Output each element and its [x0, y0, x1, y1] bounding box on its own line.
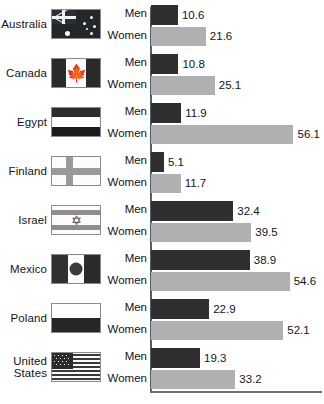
series-label-men: Men: [125, 149, 147, 170]
bar-women: [151, 370, 235, 389]
bar-value-women: 25.1: [219, 79, 241, 91]
series-label-women: Women: [108, 317, 147, 340]
flag-stripe-middle: [52, 117, 100, 126]
bar-women: [151, 223, 251, 242]
bar-row-men: 38.9: [151, 249, 324, 270]
series-label-women: Women: [108, 121, 147, 144]
bar-row-men: 19.3: [151, 347, 324, 368]
country-name-line: Egypt: [17, 116, 47, 129]
bars: 32.4 39.5: [151, 196, 324, 244]
country-label: Egypt: [0, 98, 47, 146]
bar-men: [151, 299, 209, 319]
bar-row-women: 54.6: [151, 271, 324, 291]
series-names: Men Women: [103, 147, 147, 195]
chart-row-poland: Poland Men Women 22.9 52.1: [0, 294, 324, 342]
bar-value-women: 11.7: [185, 177, 207, 189]
nordic-cross-vertical: [66, 157, 73, 185]
bar-men: [151, 348, 200, 368]
flag-band-right: [84, 255, 100, 283]
series-names: Men Women: [103, 49, 147, 97]
grouped-bar-chart: Australia Men Women 10.6: [0, 0, 324, 404]
series-label-men: Men: [125, 296, 147, 317]
flag-poland: [51, 303, 101, 333]
star: [83, 22, 86, 25]
star: [90, 16, 93, 19]
flag-finland: [51, 156, 101, 186]
bar-value-women: 33.2: [239, 373, 261, 385]
country-name-line: Poland: [11, 312, 47, 325]
country-name-line: United: [13, 355, 47, 368]
country-label: Finland: [0, 147, 47, 195]
bars: 22.9 52.1: [151, 294, 324, 342]
flag-united-states: [51, 352, 101, 382]
bar-women: [151, 174, 181, 193]
series-names: Men Women: [103, 294, 147, 342]
bar-men: [151, 103, 181, 123]
country-label: Mexico: [0, 245, 47, 293]
bar-men: [151, 152, 164, 172]
bar-women: [151, 125, 293, 144]
bar-value-women: 54.6: [294, 275, 316, 287]
chart-row-canada: Canada 🍁 Men Women 10.8 25.1: [0, 49, 324, 97]
country-name-line: States: [14, 367, 47, 380]
bar-row-men: 10.8: [151, 53, 324, 74]
bar-value-women: 52.1: [287, 324, 309, 336]
bar-value-men: 11.9: [185, 107, 207, 119]
bar-row-men: 5.1: [151, 151, 324, 172]
series-label-men: Men: [125, 198, 147, 219]
bar-women: [151, 321, 283, 340]
series-names: Men Women: [103, 245, 147, 293]
country-label: United States: [0, 343, 47, 391]
nordic-cross-horizontal: [52, 168, 100, 175]
bar-men: [151, 5, 178, 25]
flag-stripe-bottom: [52, 127, 100, 136]
bars: 19.3 33.2: [151, 343, 324, 391]
star: [93, 25, 96, 28]
bars: 11.9 56.1: [151, 98, 324, 146]
bar-row-women: 33.2: [151, 369, 324, 389]
commonwealth-star: [65, 31, 70, 36]
country-label: Poland: [0, 294, 47, 342]
series-names: Men Women: [103, 98, 147, 146]
flag-band-left: [52, 255, 68, 283]
bar-women: [151, 272, 290, 291]
bar-value-men: 10.8: [182, 58, 204, 70]
country-name-line: Mexico: [10, 263, 47, 276]
series-label-women: Women: [108, 23, 147, 46]
series-label-women: Women: [108, 72, 147, 95]
chart-row-united-states: United States Men Women: [0, 343, 324, 391]
flag-stripe-top: [52, 108, 100, 117]
bar-row-men: 10.6: [151, 4, 324, 25]
bar-row-women: 56.1: [151, 124, 324, 144]
bar-value-men: 10.6: [182, 9, 204, 21]
coat-of-arms-icon: [70, 263, 83, 276]
series-label-men: Men: [125, 345, 147, 366]
series-label-men: Men: [125, 100, 147, 121]
chart-bottom-rule: [150, 391, 322, 393]
bar-row-men: 11.9: [151, 102, 324, 123]
flag-stripe-top: [52, 304, 100, 318]
bar-row-women: 39.5: [151, 222, 324, 242]
bar-row-women: 25.1: [151, 75, 324, 95]
union-jack-canton: [52, 10, 76, 24]
star-of-david-icon: ✡: [71, 214, 82, 227]
bar-value-women: 21.6: [210, 30, 232, 42]
flag-canton-stars: [52, 353, 73, 369]
bar-men: [151, 250, 250, 270]
bars: 10.6 21.6: [151, 0, 324, 48]
star: [86, 28, 88, 30]
bar-value-women: 39.5: [255, 226, 277, 238]
bar-row-women: 52.1: [151, 320, 324, 340]
star: [90, 32, 93, 35]
bar-value-men: 32.4: [237, 205, 259, 217]
series-label-women: Women: [108, 268, 147, 291]
country-name-line: Canada: [6, 67, 47, 80]
bars: 5.1 11.7: [151, 147, 324, 195]
bar-women: [151, 27, 206, 46]
bar-value-men: 22.9: [213, 303, 235, 315]
flag-stripe-bottom: [52, 318, 100, 332]
chart-row-israel: Israel ✡ Men Women 32.4 39.5: [0, 196, 324, 244]
country-name-line: Israel: [18, 214, 47, 227]
flag-israel: ✡: [51, 205, 101, 235]
maple-leaf-icon: 🍁: [66, 65, 87, 82]
